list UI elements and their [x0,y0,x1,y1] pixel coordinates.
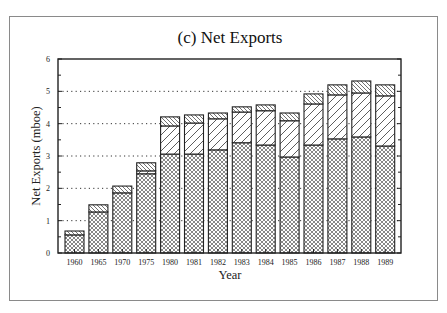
x-tick-label: 1988 [353,258,369,267]
bar-segment [161,117,180,126]
bar-segment [185,115,204,123]
bar-1975 [137,163,156,253]
y-tick-label: 6 [46,55,50,64]
bar-segment [328,95,347,139]
x-tick-label: 1984 [258,258,274,267]
bar-1989 [376,85,395,253]
bars [65,81,395,253]
x-tick-label: 1987 [329,258,345,267]
bar-segment [65,231,84,235]
bar-segment [280,157,299,253]
y-tick-label: 3 [46,152,50,161]
bar-segment [280,121,299,157]
bar-segment [185,123,204,154]
bar-segment [208,150,227,253]
bar-segment [113,193,132,253]
bar-1986 [304,94,323,253]
bar-segment [113,186,132,193]
bar-segment [89,205,108,212]
net-exports-chart: (c) Net Exports 0123456 1960196519701975… [0,0,447,313]
bar-segment [376,146,395,253]
y-axis-ticks: 0123456 [46,55,50,258]
y-axis-label: Net Exports (mboe) [29,106,43,205]
bar-segment [304,145,323,253]
bar-segment [328,139,347,253]
x-tick-label: 1989 [377,258,393,267]
bar-1981 [185,115,204,253]
bar-segment [232,107,251,112]
bar-1987 [328,85,347,253]
x-tick-label: 1981 [186,258,202,267]
y-tick-label: 4 [46,120,50,129]
gridlines [58,91,401,220]
bar-segment [208,113,227,119]
bar-segment [352,93,371,137]
x-axis-label: Year [218,268,242,282]
y-tick-label: 0 [46,249,50,258]
bar-segment [137,174,156,253]
bar-1988 [352,81,371,253]
bar-segment [161,126,180,154]
bar-segment [280,113,299,121]
bar-segment [256,111,275,145]
bar-segment [161,154,180,253]
x-tick-label: 1986 [306,258,322,267]
bar-segment [304,94,323,104]
x-tick-label: 1965 [90,258,106,267]
bar-1984 [256,105,275,253]
bar-segment [185,154,204,253]
x-tick-label: 1982 [210,258,226,267]
x-tick-label: 1970 [114,258,130,267]
x-tick-label: 1975 [138,258,154,267]
bar-segment [352,81,371,93]
bar-segment [137,163,156,171]
bar-1980 [161,117,180,253]
bar-segment [376,96,395,146]
x-tick-label: 1980 [162,258,178,267]
bar-1970 [113,186,132,253]
bar-segment [208,119,227,150]
bar-segment [232,143,251,253]
bar-1965 [89,205,108,253]
x-tick-label: 1983 [234,258,250,267]
y-tick-label: 1 [46,217,50,226]
bar-segment [256,145,275,253]
bar-1982 [208,113,227,253]
bar-segment [232,112,251,143]
bar-1983 [232,107,251,253]
bar-segment [304,104,323,145]
y-tick-label: 2 [46,184,50,193]
x-tick-label: 1985 [282,258,298,267]
x-axis-ticks: 1960196519701975198019811982198319841985… [67,258,394,267]
bar-segment [328,85,347,95]
bar-1960 [65,231,84,253]
y-tick-label: 5 [46,87,50,96]
chart-title: (c) Net Exports [178,28,283,47]
bar-segment [376,85,395,96]
x-tick-label: 1960 [67,258,83,267]
bar-segment [256,105,275,111]
bar-segment [89,212,108,253]
bar-segment [352,137,371,253]
bar-1985 [280,113,299,253]
